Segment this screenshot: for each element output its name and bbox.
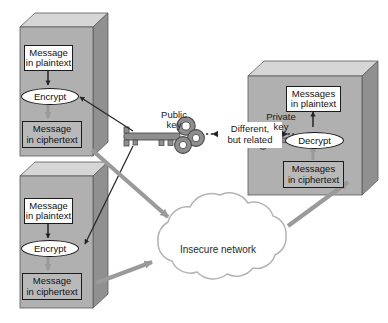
key-relation-label: Different, but related	[219, 124, 281, 145]
cloud-icon	[158, 193, 286, 279]
sender-top-plaintext-box: Message in plaintext	[24, 45, 73, 71]
sender-top-plaintext-line2: in plaintext	[26, 58, 71, 68]
sender-top-ciphertext-box: Message in ciphertext	[22, 121, 82, 148]
sender-top-ciphertext-line1: Message	[33, 124, 72, 134]
receiver-ciphertext-line1: Messages	[292, 164, 335, 174]
receiver-ciphertext-box: Messages in ciphertext	[283, 161, 344, 188]
sender-bottom-ciphertext-line1: Message	[33, 276, 72, 286]
diagram-canvas: Message in plaintext Encrypt Message in …	[0, 0, 388, 323]
key-relation-line2: but related	[219, 135, 281, 146]
network-label: Insecure network	[163, 245, 273, 256]
sender-bottom-encrypt-label: Encrypt	[34, 243, 66, 254]
receiver-decrypt-oval: Decrypt	[285, 132, 344, 149]
sender-bottom-plaintext-box: Message in plaintext	[24, 198, 73, 224]
receiver-ciphertext-line2: in ciphertext	[288, 175, 339, 185]
receiver-decrypt-label: Decrypt	[298, 135, 331, 146]
sender-top-ciphertext-line2: in ciphertext	[26, 135, 77, 145]
sender-bottom-plaintext-line2: in plaintext	[26, 211, 71, 221]
receiver-plaintext-line2: in plaintext	[291, 99, 336, 109]
public-key-label: Public key	[148, 110, 200, 131]
sender-top-encrypt-label: Encrypt	[34, 91, 66, 102]
sender-bottom-encrypt-oval: Encrypt	[21, 240, 79, 257]
sender-bottom-ciphertext-box: Message in ciphertext	[22, 273, 82, 300]
sender-top-encrypt-oval: Encrypt	[21, 88, 79, 105]
receiver-plaintext-box: Messages in plaintext	[286, 86, 341, 112]
public-key-label-line2: key	[148, 120, 200, 130]
sender-bottom-ciphertext-line2: in ciphertext	[26, 287, 77, 297]
